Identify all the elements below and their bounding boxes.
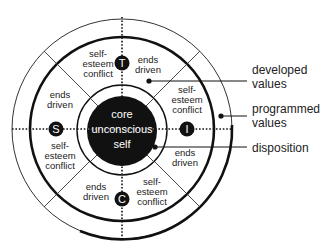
svg-text:conflict: conflict [172,104,202,115]
svg-text:driven: driven [172,157,198,168]
developed-values-label-1: developed [252,63,307,77]
developed-values-label-2: values [252,77,287,91]
svg-text:conflict: conflict [45,160,75,171]
node-I-label: I [185,123,188,135]
segment-right-lower: ends driven [172,147,198,168]
segment-bottom-right: self- esteem conflict [136,176,167,207]
node-S: S [49,122,64,137]
segment-bottom-left: ends driven [83,181,109,202]
svg-text:conflict: conflict [137,196,167,207]
segment-left-upper: ends driven [47,89,73,110]
svg-text:driven: driven [135,64,161,75]
svg-text:driven: driven [47,99,73,110]
core-label-line-3: self [113,138,131,150]
node-C: C [115,192,130,207]
svg-text:conflict: conflict [83,68,113,79]
core-label-line-1: core [111,108,132,120]
segment-top-left: self- esteem conflict [82,48,113,79]
node-I: I [180,122,195,137]
node-S-label: S [52,123,59,135]
callout-programmed-values: programmed values [218,102,320,130]
node-T-label: T [119,57,126,69]
disposition-label: disposition [252,141,309,155]
programmed-values-label-2: values [252,116,287,130]
segment-right-upper: self- esteem conflict [171,84,202,115]
segment-left-lower: self- esteem conflict [44,140,75,171]
values-diagram: core unconscious self T S I C self- este… [0,0,334,251]
svg-text:driven: driven [83,191,109,202]
segment-top-right: ends driven [135,54,161,75]
node-C-label: C [118,193,126,205]
programmed-values-label-1: programmed [252,102,320,116]
node-T: T [115,56,130,71]
callout-developed-values: developed values [146,63,307,91]
